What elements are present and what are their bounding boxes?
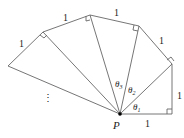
hyp-4: [43, 32, 120, 114]
angle-label-2: θ2: [128, 85, 135, 96]
edge-label-4: 1: [114, 7, 119, 18]
angle-label-3: θ3: [115, 79, 122, 90]
spiral-diagram: P 1 1 1 1 1 1 θ1 θ2 θ3 ⋮: [0, 0, 184, 138]
outer-edges: [8, 15, 172, 114]
angle-label-1: θ1: [133, 102, 140, 113]
point-label: P: [112, 119, 120, 131]
edge-label-6: 1: [19, 38, 24, 49]
ellipsis: ⋮: [43, 92, 53, 103]
edge-label-5: 1: [63, 12, 68, 23]
point-p: [118, 112, 122, 116]
right-angle-1: [167, 109, 172, 114]
edge-label-2: 1: [177, 90, 182, 101]
edge-label-3: 1: [159, 35, 164, 46]
right-angle-2: [167, 57, 174, 61]
edge-label-1: 1: [145, 118, 150, 129]
right-angle-4: [86, 16, 90, 21]
right-angle-5: [40, 35, 47, 38]
hyp-3: [90, 15, 120, 114]
hyp-2: [120, 26, 139, 114]
